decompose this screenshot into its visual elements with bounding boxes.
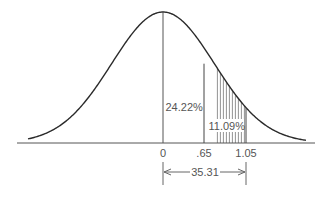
tick-label-105: 1.05 (235, 147, 256, 159)
area-label-065-to-105: 11.09% (209, 120, 246, 132)
normal-curve-diagram: 24.22% 11.09% 0 .65 1.05 35.31 (0, 0, 326, 198)
area-label-0-to-065: 24.22% (166, 101, 204, 113)
tick-label-0: 0 (160, 147, 166, 159)
tick-label-065: .65 (196, 147, 211, 159)
dimension-label: 35.31 (191, 166, 219, 178)
normal-curve (28, 12, 306, 140)
